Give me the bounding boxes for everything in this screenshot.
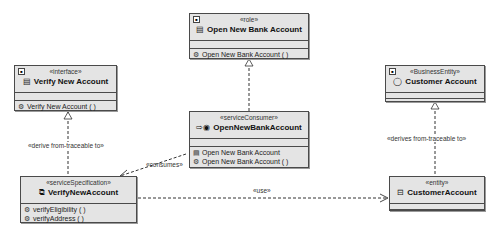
operation-item[interactable]: ⚙Verify New Account ( )	[18, 102, 113, 111]
operations-compartment: ⚙Verify New Account ( )	[15, 100, 116, 112]
operations-compartment: ▤Open New Bank Account ⚙Open New Bank Ac…	[190, 146, 308, 167]
attributes-compartment	[190, 40, 308, 48]
class-marker-icon: ■	[389, 68, 396, 75]
entity-circle-icon: ◯	[393, 76, 402, 87]
stereotype-label: «BusinessEntity»	[386, 68, 484, 76]
class-entity-customer-account[interactable]: «entity» ⊟CustomerAccount	[389, 176, 485, 211]
document-icon: ▤	[193, 148, 202, 157]
use-label: «use»	[253, 187, 271, 194]
operations-compartment: ⚙verifyEligibility ( ) ⚙verifyAddress ( …	[21, 203, 136, 224]
gear-icon: ⚙	[18, 102, 27, 111]
consumer-arrow-icon: ⇨◉	[196, 122, 210, 133]
operation-item[interactable]: ▤Open New Bank Account	[193, 148, 305, 157]
stereotype-label: «serviceSpecification»	[21, 179, 136, 187]
gear-icon: ⚙	[24, 205, 33, 214]
class-name: VerifyNewAccount	[48, 188, 118, 197]
derive-label-left: «derive from-traceable to»	[28, 142, 104, 149]
document-icon: ▤	[23, 76, 31, 87]
gear-icon: ⚙	[193, 50, 202, 59]
class-marker-icon: ■	[18, 68, 25, 75]
stereotype-label: «entity»	[390, 179, 484, 187]
class-name: Customer Account	[405, 77, 476, 86]
derive-label-right: «derives from-traceable to»	[387, 135, 466, 142]
stereotype-label: «interface»	[15, 68, 116, 76]
stereotype-label: «serviceConsumer»	[190, 114, 308, 122]
gear-icon: ⚙	[24, 214, 33, 223]
operations-compartment: ⚙Open New Bank Account ( )	[190, 48, 308, 60]
operations-compartment	[386, 98, 484, 104]
class-name: OpenNewBankAccount	[213, 123, 301, 132]
service-spec-icon: ⧉	[39, 187, 45, 198]
class-marker-icon: ■	[193, 16, 200, 23]
class-name: Verify New Account	[34, 77, 108, 86]
attributes-compartment	[15, 92, 116, 100]
operation-item[interactable]: ⚙verifyEligibility ( )	[24, 205, 133, 214]
consumes-label: «consumes»	[146, 161, 183, 168]
component-icon: ⊟	[397, 187, 404, 198]
class-service-consumer-open-new-bank-account[interactable]: «serviceConsumer» ⇨◉OpenNewBankAccount ▤…	[189, 111, 309, 168]
class-role-open-new-bank-account[interactable]: ■ «role» ▤Open New Bank Account ⚙Open Ne…	[189, 13, 309, 59]
operation-item[interactable]: ⚙verifyAddress ( )	[24, 214, 133, 223]
operation-item[interactable]: ⚙Open New Bank Account ( )	[193, 157, 305, 166]
class-service-specification-verify-new-account[interactable]: «serviceSpecification» ⧉VerifyNewAccount…	[20, 176, 137, 223]
gear-icon: ⚙	[193, 157, 202, 166]
stereotype-label: «role»	[190, 16, 308, 24]
operation-item[interactable]: ⚙Open New Bank Account ( )	[193, 50, 305, 59]
document-icon: ▤	[196, 24, 204, 35]
class-business-entity-customer-account[interactable]: ■ «BusinessEntity» ◯Customer Account	[385, 65, 485, 102]
class-interface-verify-new-account[interactable]: ■ «interface» ▤Verify New Account ⚙Verif…	[14, 65, 117, 111]
attributes-compartment	[190, 138, 308, 146]
class-name: CustomerAccount	[407, 188, 476, 197]
class-name: Open New Bank Account	[207, 25, 302, 34]
operations-compartment	[390, 209, 484, 215]
